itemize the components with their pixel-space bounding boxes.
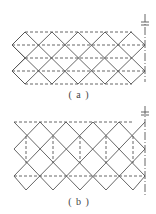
- figure-a-caption: ( a ): [59, 89, 99, 100]
- figure-b-dashed-horizontals: [14, 122, 145, 176]
- figure-b-dashed-verticals: [26, 136, 133, 163]
- figure-a: [12, 14, 149, 84]
- figure-b: [14, 106, 149, 195]
- diagram-canvas: [0, 0, 156, 214]
- figure-b-caption: ( b ): [59, 196, 99, 207]
- figure-b-axis: [141, 106, 149, 195]
- figure-b-diamond-lattice: [14, 122, 145, 190]
